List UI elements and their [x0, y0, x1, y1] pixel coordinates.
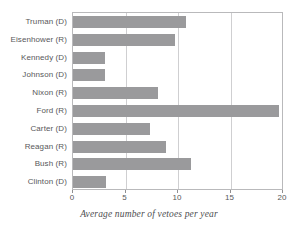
bar — [73, 158, 191, 170]
category-axis-labels: Truman (D)Eisenhower (R)Kennedy (D)Johns… — [0, 12, 70, 190]
bar — [73, 16, 186, 28]
category-label: Truman (D) — [0, 17, 67, 26]
x-tick-label: 15 — [218, 193, 242, 203]
veto-bar-chart-figure: Truman (D)Eisenhower (R)Kennedy (D)Johns… — [0, 0, 298, 232]
gridline-15 — [231, 13, 232, 189]
bar — [73, 52, 105, 64]
category-label: Clinton (D) — [0, 177, 67, 186]
bar — [73, 34, 175, 46]
x-tick-label: 5 — [113, 193, 137, 203]
bar — [73, 123, 150, 135]
x-axis-caption: Average number of vetoes per year — [0, 209, 298, 219]
category-label: Nixon (R) — [0, 88, 67, 97]
plot-area — [72, 12, 283, 190]
category-label: Carter (D) — [0, 124, 67, 133]
category-label: Kennedy (D) — [0, 53, 67, 62]
category-label: Ford (R) — [0, 106, 67, 115]
x-tick-label: 10 — [165, 193, 189, 203]
bar — [73, 87, 158, 99]
x-tick-label: 20 — [270, 193, 294, 203]
x-tick-label: 0 — [60, 193, 84, 203]
category-label: Eisenhower (R) — [0, 35, 67, 44]
value-axis: 05101520 — [72, 190, 283, 206]
category-label: Reagan (R) — [0, 142, 67, 151]
bar — [73, 141, 166, 153]
bar — [73, 69, 105, 81]
bar — [73, 176, 106, 188]
category-label: Bush (R) — [0, 159, 67, 168]
category-label: Johnson (D) — [0, 70, 67, 79]
bar — [73, 105, 279, 117]
